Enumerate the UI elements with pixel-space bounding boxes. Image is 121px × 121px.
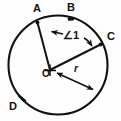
label-center-o: O xyxy=(42,69,50,79)
circle-diagram-svg xyxy=(0,0,121,121)
angle-arrow-right xyxy=(84,38,92,46)
point-marker-d xyxy=(18,95,26,103)
label-point-c: C xyxy=(107,31,115,42)
label-point-a: A xyxy=(33,3,41,14)
label-point-d: D xyxy=(9,101,17,112)
point-marker-a xyxy=(36,21,40,25)
point-marker-c xyxy=(99,43,103,47)
label-point-b: B xyxy=(67,2,75,13)
label-radius: r xyxy=(74,64,78,74)
angle-arrow-left xyxy=(52,32,64,35)
circle-diagram-figure: A B C D O ∠1 r xyxy=(0,0,121,121)
label-central-angle: ∠1 xyxy=(63,30,79,41)
radius-line-oa xyxy=(38,23,51,71)
point-marker-b xyxy=(68,17,75,21)
